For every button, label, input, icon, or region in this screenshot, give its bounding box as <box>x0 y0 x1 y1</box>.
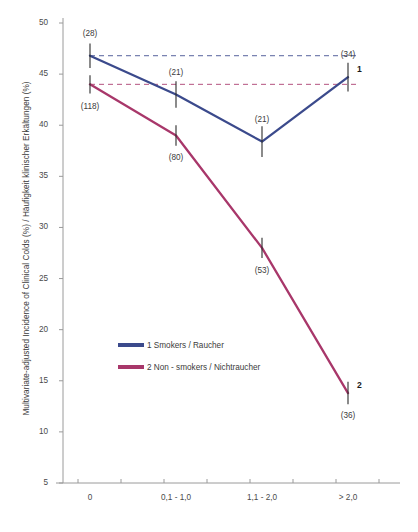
x-tick-3: > 2,0 <box>308 494 388 502</box>
count-label-34: (34) <box>325 51 371 59</box>
x-tick-2: 1,1 - 2,0 <box>222 494 302 502</box>
x-tick-0: 0 <box>50 494 130 502</box>
y-tick-10: 10 <box>26 428 48 436</box>
plot-area <box>0 0 418 532</box>
legend-label-smokers: 1 Smokers / Raucher <box>147 341 224 350</box>
y-tick-25: 25 <box>26 275 48 283</box>
legend: 1 Smokers / Raucher 2 Non - smokers / Ni… <box>118 338 260 382</box>
series-end-label-2: 2 <box>357 381 362 390</box>
count-label-53: (53) <box>239 267 285 275</box>
count-label-28: (28) <box>67 30 113 38</box>
y-tick-20: 20 <box>26 326 48 334</box>
legend-swatch-nonsmokers <box>118 365 144 368</box>
series-end-label-1: 1 <box>357 65 362 74</box>
y-tick-40: 40 <box>26 121 48 129</box>
count-label-36: (36) <box>325 412 371 420</box>
legend-item-nonsmokers: 2 Non - smokers / Nichtraucher <box>118 360 260 374</box>
count-label-80: (80) <box>153 154 199 162</box>
x-tick-1: 0,1 - 1,0 <box>136 494 216 502</box>
y-tick-5: 5 <box>26 479 48 487</box>
count-label-21: (21) <box>239 116 285 124</box>
y-tick-50: 50 <box>26 19 48 27</box>
chart-figure: Multivariate-adjusted Incidence of Clini… <box>0 0 418 532</box>
y-tick-30: 30 <box>26 223 48 231</box>
legend-item-smokers: 1 Smokers / Raucher <box>118 338 260 352</box>
y-tick-45: 45 <box>26 70 48 78</box>
legend-label-nonsmokers: 2 Non - smokers / Nichtraucher <box>147 363 260 372</box>
count-label-118: (118) <box>67 103 113 111</box>
y-tick-35: 35 <box>26 172 48 180</box>
legend-swatch-smokers <box>118 343 144 346</box>
y-tick-15: 15 <box>26 377 48 385</box>
count-label-21: (21) <box>153 69 199 77</box>
